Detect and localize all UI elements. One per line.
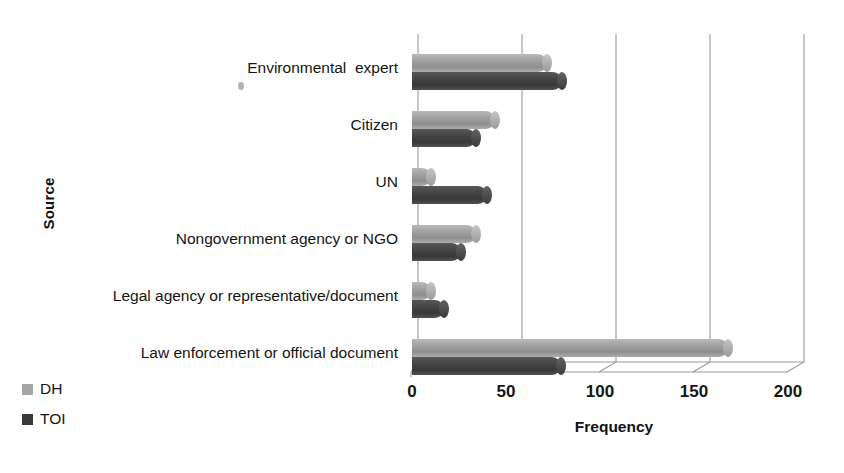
legend-item-dh: DH — [22, 376, 66, 402]
bar-cap — [471, 225, 481, 243]
bar-dh-un — [412, 168, 431, 186]
bar-dh-ngo — [412, 225, 476, 243]
legend-label: TOI — [40, 410, 66, 428]
bar-toi-legal-agency — [412, 300, 444, 318]
x-axis-title: Frequency — [404, 418, 824, 436]
legend-item-toi: TOI — [22, 406, 66, 432]
category-label: Law enforcement or official document — [2, 344, 398, 362]
bar-toi-un — [412, 186, 487, 204]
legend-label: DH — [40, 380, 62, 398]
legend-swatch-icon — [22, 414, 33, 425]
bar-cap — [456, 243, 466, 261]
bar-toi-ngo — [412, 243, 461, 261]
x-axis-tick-labels: 0 50 100 150 200 — [404, 382, 824, 408]
category-label: UN — [2, 173, 398, 191]
legend-swatch-icon — [22, 384, 33, 395]
bar-dh-environmental-expert — [412, 54, 547, 72]
bar-cap — [557, 72, 567, 90]
bar-cap — [556, 357, 566, 375]
scan-artifact-speck — [238, 82, 244, 90]
x-tick-100: 100 — [570, 382, 630, 402]
bar-cap — [471, 129, 481, 147]
bar-cap — [542, 54, 552, 72]
bar-toi-law-enforcement — [412, 357, 561, 375]
bar-dh-citizen — [412, 111, 495, 129]
bar-dh-legal-agency — [412, 282, 431, 300]
x-tick-200: 200 — [758, 382, 818, 402]
plot-area — [404, 28, 824, 378]
bar-cap — [426, 168, 436, 186]
bar-cap — [439, 300, 449, 318]
x-tick-50: 50 — [476, 382, 536, 402]
category-axis-labels: Environmental expert Citizen UN Nongover… — [0, 30, 404, 372]
x-tick-0: 0 — [382, 382, 442, 402]
category-label: Legal agency or representative/document — [2, 287, 398, 305]
x-tick-150: 150 — [664, 382, 724, 402]
bar-cap — [426, 282, 436, 300]
category-label: Nongovernment agency or NGO — [2, 230, 398, 248]
category-label: Citizen — [2, 116, 398, 134]
bar-cap — [482, 186, 492, 204]
bar-toi-environmental-expert — [412, 72, 562, 90]
legend: DH TOI — [22, 376, 66, 436]
bar-cap — [490, 111, 500, 129]
category-label: Environmental expert — [2, 59, 398, 77]
bar-toi-citizen — [412, 129, 476, 147]
bar-series-container — [404, 28, 824, 378]
bar-chart: Source Environmental expert Citizen UN N… — [0, 0, 844, 473]
bar-cap — [723, 339, 733, 357]
bar-dh-law-enforcement — [412, 339, 728, 357]
